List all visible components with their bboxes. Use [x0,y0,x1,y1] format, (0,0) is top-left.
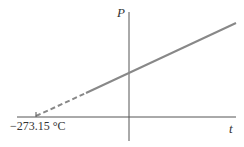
absolute-zero-label: −273.15 °C [10,119,66,134]
extrapolated-dashed-line [36,93,86,116]
x-axis-label: t [229,121,233,137]
y-axis-label: P [117,5,125,21]
measured-solid-line [86,23,236,93]
